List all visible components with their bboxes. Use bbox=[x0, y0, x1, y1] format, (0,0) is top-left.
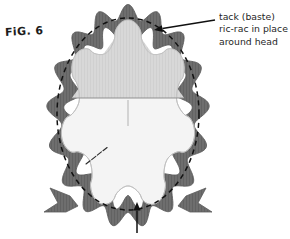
callout-line-3: around head bbox=[219, 36, 290, 48]
callout-text: tack (baste) ric-rac in place around hea… bbox=[219, 11, 290, 48]
callout-line-1: tack (baste) bbox=[219, 11, 290, 23]
figure-canvas: FiG. 6 tack (baste) ric-rac in place aro… bbox=[0, 0, 290, 239]
figure-label: FiG. 6 bbox=[5, 24, 44, 39]
callout-line-2: ric-rac in place bbox=[219, 23, 290, 35]
